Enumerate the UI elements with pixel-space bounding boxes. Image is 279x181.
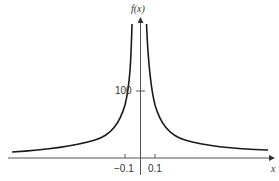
x-tick-label-neg: −0.1	[114, 163, 134, 174]
x-tick-label-pos: 0.1	[148, 163, 162, 174]
curve-right-branch	[147, 24, 269, 150]
y-axis-label: f(x)	[131, 3, 145, 14]
chart-plot	[0, 0, 279, 181]
x-axis-label: x	[271, 163, 275, 174]
curve-left-branch	[12, 24, 132, 152]
y-tick-label-100: 100	[115, 85, 132, 96]
